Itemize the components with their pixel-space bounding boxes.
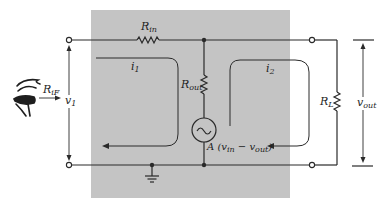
v-out-label: vout [356,97,377,110]
r-out-label: Rout [181,79,202,92]
source-label: A (vin − vout) [207,142,272,154]
terminal-input-top [66,37,71,42]
terminal-output-top [309,37,314,42]
amplifier-box [91,10,290,198]
r-if-label: RiF [43,84,59,97]
terminal-input-bottom [66,162,71,167]
junction-top [202,38,206,42]
v1-arrow-up [67,45,72,51]
eye-icon [14,80,40,116]
vout-arrow-up [361,43,366,49]
v1-arrow-down [67,155,72,161]
rl-resistor [334,92,340,111]
terminal-output-bottom [309,162,314,167]
v1-label: v1 [64,95,77,108]
junction-ground [150,163,154,167]
vout-arrow-down [361,157,366,163]
junction-bottom-source [202,163,206,167]
r-in-label: Rin [141,21,157,34]
i2-label: i2 [266,63,275,76]
r-l-label: RL [320,96,334,109]
i1-label: i1 [131,61,140,74]
